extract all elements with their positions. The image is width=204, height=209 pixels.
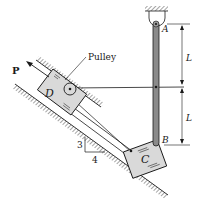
horizontal-cable [68, 87, 184, 88]
pulley-label: Pulley [88, 52, 117, 62]
rod-ab [153, 21, 159, 146]
mechanism-diagram: 3 4 D Pulley P C [0, 0, 204, 209]
slope-run-label: 4 [92, 155, 98, 165]
lower-incline-surface [12, 84, 168, 199]
dimension-lines [164, 24, 190, 145]
force-p-label: P [12, 65, 20, 76]
slope-rise-label: 3 [77, 140, 83, 150]
point-b-label: B [161, 135, 169, 145]
pin-c [130, 150, 133, 153]
block-c-label: C [141, 153, 150, 166]
point-a-label: A [161, 24, 169, 34]
dimension-upper-label: L [185, 53, 192, 63]
dimension-lower-label: L [185, 113, 192, 123]
block-d-label: D [44, 87, 54, 100]
pulley-leader-line [65, 57, 86, 80]
